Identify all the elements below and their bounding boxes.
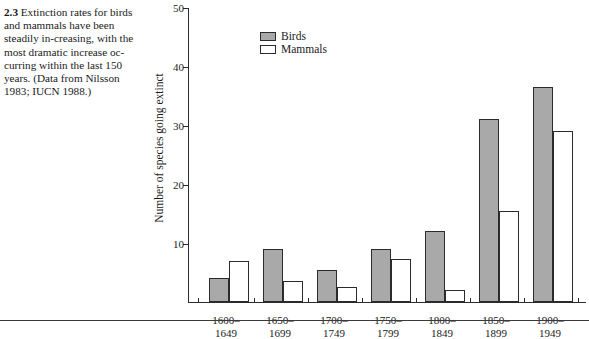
bar-birds-1850–1899[interactable] <box>479 119 499 302</box>
bar-mammals-1800–1849[interactable] <box>445 290 465 302</box>
y-tick-label: 30 <box>173 121 184 132</box>
x-axis-label-line: 1749 <box>306 327 362 339</box>
bar-birds-1700–1749[interactable] <box>317 270 337 302</box>
legend-swatch-birds-icon <box>260 32 276 41</box>
x-tick-mark <box>416 298 417 303</box>
bar-group <box>366 8 414 302</box>
bar-chart: Number of species going extinct 10203040… <box>148 0 589 324</box>
bar-birds-1800–1849[interactable] <box>425 231 445 302</box>
plot-area: 1020304050 1600–16491650–16991700–174917… <box>188 8 586 303</box>
y-tick-label: 20 <box>173 180 184 191</box>
x-tick-mark <box>362 298 363 303</box>
x-axis-label-1900–1949: 1900–1949 <box>522 314 578 339</box>
figure-caption-text: Extinction rates for birds and mammals h… <box>4 6 133 97</box>
y-axis-line <box>188 8 189 303</box>
x-axis-label-line: 1849 <box>414 327 470 339</box>
bar-group <box>204 8 252 302</box>
x-axis-line <box>188 302 586 303</box>
x-axis-label-1750–1799: 1750–1799 <box>360 314 416 339</box>
legend-item-mammals: Mammals <box>260 43 327 56</box>
bar-mammals-1700–1749[interactable] <box>337 287 357 302</box>
legend-label-mammals: Mammals <box>281 43 327 56</box>
x-axis-label-line: 1699 <box>252 327 308 339</box>
x-axis-label-line: 1649 <box>198 327 254 339</box>
x-axis-label-1600–1649: 1600–1649 <box>198 314 254 339</box>
bar-birds-1750–1799[interactable] <box>371 249 391 302</box>
bar-group <box>528 8 576 302</box>
bar-group <box>474 8 522 302</box>
x-tick-mark <box>254 298 255 303</box>
figure-number: 2.3 <box>4 6 18 18</box>
y-axis-title: Number of species going extinct <box>152 0 166 295</box>
y-tick-label: 40 <box>173 62 184 73</box>
legend-item-birds: Birds <box>260 30 327 43</box>
x-axis-label-1800–1849: 1800–1849 <box>414 314 470 339</box>
x-axis-label-1650–1699: 1650–1699 <box>252 314 308 339</box>
figure-bottom-rule <box>0 320 589 321</box>
x-tick-mark <box>470 298 471 303</box>
x-axis-label-line: 1899 <box>468 327 524 339</box>
x-axis-label-line: 1799 <box>360 327 416 339</box>
x-axis-label-1850–1899: 1850–1899 <box>468 314 524 339</box>
bar-group <box>420 8 468 302</box>
x-axis-label-line: 1949 <box>522 327 578 339</box>
bar-birds-1900–1949[interactable] <box>533 87 553 302</box>
y-tick-label: 50 <box>173 3 184 14</box>
bar-mammals-1600–1649[interactable] <box>229 261 249 302</box>
x-tick-mark <box>308 298 309 303</box>
bar-birds-1600–1649[interactable] <box>209 278 229 302</box>
chart-legend: Birds Mammals <box>260 30 327 56</box>
x-tick-mark <box>198 298 199 303</box>
bar-mammals-1750–1799[interactable] <box>391 259 411 302</box>
y-axis-title-text: Number of species going extinct <box>153 73 165 222</box>
legend-label-birds: Birds <box>281 30 306 43</box>
x-axis-label-1700–1749: 1700–1749 <box>306 314 362 339</box>
figure-caption: 2.3 Extinction rates for birds and mamma… <box>4 6 144 98</box>
bar-birds-1650–1699[interactable] <box>263 249 283 302</box>
x-tick-mark <box>578 298 579 303</box>
bar-mammals-1650–1699[interactable] <box>283 281 303 302</box>
legend-swatch-mammals-icon <box>260 45 276 54</box>
x-tick-mark <box>524 298 525 303</box>
bar-mammals-1850–1899[interactable] <box>499 211 519 302</box>
bar-mammals-1900–1949[interactable] <box>553 131 573 302</box>
y-tick-label: 10 <box>173 239 184 250</box>
